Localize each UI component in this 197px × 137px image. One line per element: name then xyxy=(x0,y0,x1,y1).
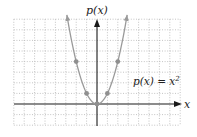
data-point xyxy=(105,91,110,96)
function-label: p(x) = x2 xyxy=(133,75,180,87)
function-label-main: p(x) = x xyxy=(133,75,175,87)
data-point xyxy=(74,59,79,64)
x-axis-label: x xyxy=(184,98,191,111)
data-point xyxy=(95,102,100,107)
function-label-exponent: 2 xyxy=(174,75,180,83)
x-axis-arrow-icon xyxy=(174,101,182,107)
y-axis-arrow-icon xyxy=(94,19,100,27)
data-point xyxy=(115,59,120,64)
curve-arrow-icon xyxy=(124,15,129,21)
data-point xyxy=(84,91,89,96)
curve-arrow-icon xyxy=(65,15,70,21)
y-axis-label: p(x) xyxy=(86,4,108,17)
function-plot: p(x) x p(x) = x2 xyxy=(0,0,197,137)
